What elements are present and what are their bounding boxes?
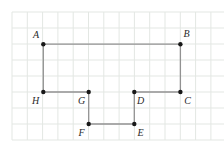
vertex-dot-C [178, 90, 182, 94]
vertex-dot-H [41, 90, 45, 94]
vertex-dot-B [178, 42, 182, 46]
vertex-dot-G [87, 90, 91, 94]
vertex-label-H: H [31, 95, 40, 106]
vertex-label-D: D [136, 95, 145, 106]
vertex-label-G: G [78, 95, 85, 106]
vertex-label-B: B [183, 28, 189, 39]
figure-background [0, 0, 224, 149]
vertex-dot-A [41, 42, 45, 46]
vertex-dot-D [132, 90, 136, 94]
vertex-label-F: F [77, 127, 85, 138]
geometry-diagram: ABCDEFGH [0, 0, 224, 149]
vertex-dot-E [132, 122, 136, 126]
vertex-label-E: E [136, 127, 143, 138]
geometry-figure: ABCDEFGH [0, 0, 224, 149]
vertex-dot-F [87, 122, 91, 126]
vertex-label-C: C [184, 95, 191, 106]
vertex-label-A: A [32, 29, 40, 40]
